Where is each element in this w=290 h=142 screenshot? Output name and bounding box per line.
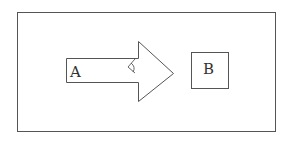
arrow-a: A xyxy=(67,42,174,102)
diagram-canvas: A B xyxy=(0,0,290,142)
arrow-label: A xyxy=(69,63,81,81)
box-b-label: B xyxy=(203,60,214,78)
arrow-shape xyxy=(67,42,174,102)
box-b: B xyxy=(192,53,229,89)
